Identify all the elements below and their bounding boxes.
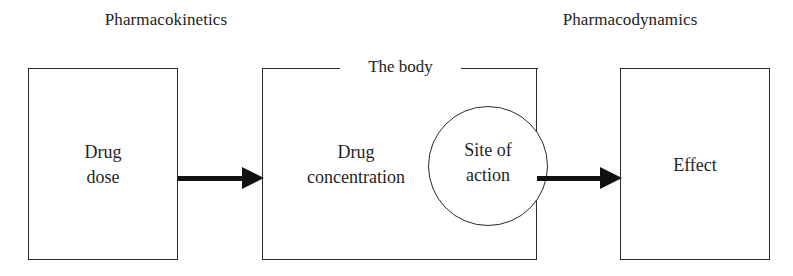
arrow-shaft — [537, 176, 602, 181]
arrow-shaft — [178, 176, 244, 181]
arrow-body-to-effect — [537, 167, 622, 189]
arrow-head-icon — [600, 167, 622, 189]
box-effect-label: Effect — [620, 153, 770, 178]
arrow-head-icon — [242, 167, 264, 189]
arrow-dose-to-body — [178, 167, 264, 189]
section-header-pharmacokinetics: Pharmacokinetics — [46, 10, 286, 30]
pharmacokinetics-pharmacodynamics-diagram: Pharmacokinetics Pharmacodynamics Drug d… — [0, 0, 793, 276]
circle-site-of-action-label: Site of action — [428, 138, 548, 188]
box-drug-concentration-label: Drug concentration — [266, 140, 446, 190]
body-box-legend: The body — [340, 56, 461, 78]
section-header-pharmacodynamics: Pharmacodynamics — [510, 10, 750, 30]
box-drug-dose-label: Drug dose — [28, 140, 178, 190]
